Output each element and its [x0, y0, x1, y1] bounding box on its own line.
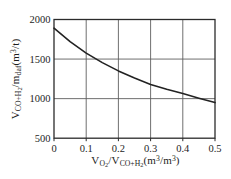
x-tick-label: 0.1	[80, 143, 93, 154]
chart-canvas: 00.10.20.30.40.5500100015002000	[0, 0, 231, 179]
axis-title-segment: CO+H	[14, 91, 23, 112]
axis-title-segment: daf	[14, 66, 23, 76]
axis-title-segment: /V	[108, 154, 119, 166]
x-tick-label: 0.5	[208, 143, 221, 154]
axis-title-segment: V	[91, 154, 99, 166]
y-tick-label: 2000	[30, 14, 51, 25]
axis-title-segment: (m	[143, 154, 156, 166]
axis-title-segment: )	[176, 154, 180, 166]
x-axis-title: VO2/VCO+H2(m3/m3)	[0, 154, 231, 168]
data-curve	[54, 28, 215, 102]
x-tick-label: 0.2	[112, 143, 125, 154]
x-tick-label: 0.3	[144, 143, 157, 154]
axis-title-segment: /m	[9, 75, 21, 87]
axis-title-segment: (m	[9, 53, 21, 66]
y-axis-title: VCO+H2/mdaf(m3/t)	[9, 4, 23, 154]
y-tick-label: 1000	[30, 93, 51, 104]
chart-figure: 00.10.20.30.40.5500100015002000 VCO+H2/m…	[0, 0, 231, 179]
x-tick-label: 0.4	[176, 143, 190, 154]
y-tick-label: 500	[35, 133, 51, 144]
axis-title-segment: 2	[16, 87, 23, 90]
axis-title-segment: V	[9, 111, 21, 119]
axis-title-segment: 3	[9, 49, 18, 53]
axis-title-segment: /t)	[9, 39, 21, 49]
axis-title-segment: /m	[160, 154, 172, 166]
y-tick-label: 1500	[30, 54, 51, 65]
axis-title-segment: CO+H	[120, 159, 141, 168]
x-tick-label: 0	[51, 143, 56, 154]
